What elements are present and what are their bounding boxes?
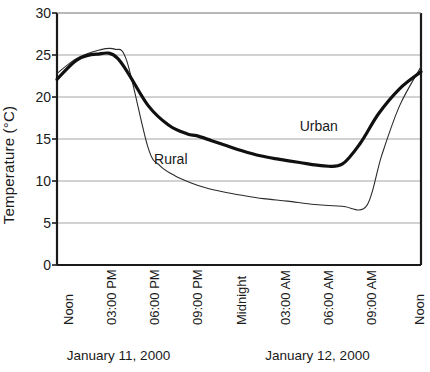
y-tick-label: 30 xyxy=(23,6,51,20)
y-tick-label: 5 xyxy=(23,216,51,230)
x-tick-label: Noon xyxy=(413,294,426,325)
y-axis-label-wrapper: Temperature (°C) xyxy=(0,39,26,291)
x-tick-label: Midnight xyxy=(235,276,248,325)
y-axis-label: Temperature (°C) xyxy=(0,39,17,291)
x-tick-label: 03:00 AM xyxy=(279,270,292,325)
series-annotation-urban: Urban xyxy=(300,118,338,134)
x-tick-label: 06:00 AM xyxy=(322,270,335,325)
series-annotation-rural: Rural xyxy=(154,151,187,167)
y-tick-label: 15 xyxy=(23,132,51,146)
x-tick-label: 09:00 AM xyxy=(365,270,378,325)
y-tick-label: 0 xyxy=(23,258,51,272)
temperature-chart-figure: Temperature (°C) 051015202530 Noon03:00 … xyxy=(0,0,430,372)
day-group-label: January 12, 2000 xyxy=(245,348,390,363)
x-tick-label: 09:00 PM xyxy=(191,269,204,325)
y-tick-label: 20 xyxy=(23,90,51,104)
x-tick-label: 03:00 PM xyxy=(105,269,118,325)
x-tick-label: 06:00 PM xyxy=(148,269,161,325)
day-group-label: January 11, 2000 xyxy=(47,348,190,363)
x-tick-label: Noon xyxy=(62,294,75,325)
y-tick-label: 10 xyxy=(23,174,51,188)
y-tick-label: 25 xyxy=(23,48,51,62)
